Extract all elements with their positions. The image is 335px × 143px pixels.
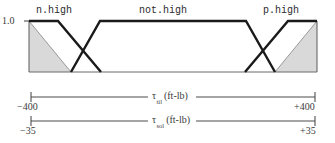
tilt-axis-units: (ft-lb) [164, 90, 188, 101]
tilt-axis-subscript: til [157, 98, 162, 105]
tilt-axis-min-label: −400 [17, 101, 38, 112]
solar-axis-max-label: +35 [300, 125, 316, 136]
solar-axis-min-label: −35 [20, 125, 36, 136]
curve-not-high [71, 21, 275, 72]
figure-root: n.high not.high p.high 1.0 [0, 0, 335, 143]
solar-axis-subscript: sol [157, 122, 165, 129]
solar-axis-label: τsol (ft-lb) [152, 114, 190, 127]
tilt-axis-symbol: τ [152, 90, 156, 101]
solar-axis-symbol: τ [152, 114, 156, 125]
tilt-axis-label: τtil (ft-lb) [152, 90, 188, 103]
tilt-axis-max-label: +400 [294, 101, 315, 112]
solar-axis-units: (ft-lb) [166, 114, 190, 125]
